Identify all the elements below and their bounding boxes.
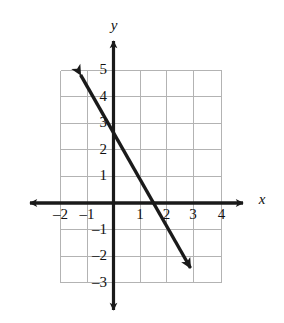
graph-canvas: –2 –1 1 2 3 4 5 4 3 2 1 –1 –2 –3 x y xyxy=(0,0,284,323)
grid-lines xyxy=(61,71,222,283)
x-tick-labels: –2 –1 1 2 3 4 xyxy=(52,206,226,222)
x-tick-label: –2 xyxy=(52,206,68,222)
x-tick-label: 2 xyxy=(163,206,171,222)
x-tick-label: 4 xyxy=(218,206,226,222)
y-tick-label: 2 xyxy=(100,141,108,157)
x-tick-label: 1 xyxy=(136,206,144,222)
coordinate-plane-figure: –2 –1 1 2 3 4 5 4 3 2 1 –1 –2 –3 x y xyxy=(0,0,284,323)
y-tick-label: 4 xyxy=(100,88,108,104)
x-tick-label: 3 xyxy=(189,206,197,222)
plotted-line-group xyxy=(81,75,191,268)
y-tick-label: 1 xyxy=(100,167,108,183)
y-tick-label: 3 xyxy=(100,114,108,130)
y-axis-name-label: y xyxy=(109,17,118,33)
y-tick-label: –1 xyxy=(91,221,107,237)
plotted-line xyxy=(81,75,191,268)
y-tick-label: –3 xyxy=(91,274,107,290)
y-tick-label: 5 xyxy=(100,61,108,77)
y-tick-label: –2 xyxy=(91,247,107,263)
x-axis-name-label: x xyxy=(258,191,266,207)
